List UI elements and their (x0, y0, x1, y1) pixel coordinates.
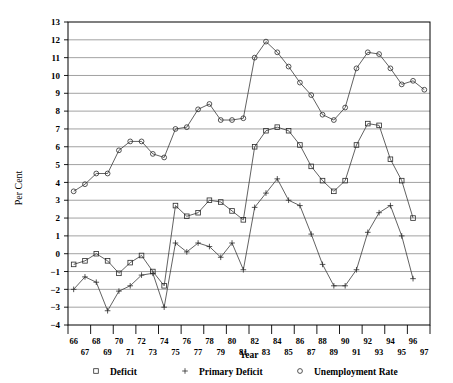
x-tick-label: 71 (126, 347, 135, 357)
x-tick-label: 84 (273, 336, 282, 346)
x-tick-label: 89 (330, 347, 339, 357)
y-tick-label: −1 (50, 267, 60, 277)
data-point-plus (331, 283, 337, 289)
data-series-layer (71, 39, 427, 313)
legend-label: Deficit (110, 367, 138, 377)
x-tick-label: 72 (137, 336, 146, 346)
data-point-plus (376, 210, 382, 216)
data-point-plus (182, 368, 188, 374)
y-tick-label: −2 (50, 285, 60, 295)
x-tick-label: 73 (149, 347, 158, 357)
x-tick-label: 88 (318, 336, 327, 346)
y-axis-title: Per Cent (13, 170, 24, 205)
y-axis-ticks (64, 22, 68, 325)
x-tick-label: 93 (375, 347, 384, 357)
x-tick-label: 69 (103, 347, 112, 357)
y-tick-label: 2 (56, 213, 61, 223)
data-point-circle (71, 189, 76, 194)
x-tick-label: 79 (216, 347, 225, 357)
data-point-plus (320, 262, 326, 268)
y-tick-label: 6 (56, 142, 61, 152)
x-tick-label: 97 (420, 347, 429, 357)
series-primary-deficit (71, 176, 416, 313)
y-tick-label: 1 (56, 231, 61, 241)
x-tick-label: 80 (228, 336, 237, 346)
data-point-plus (105, 308, 111, 314)
series-polyline (74, 42, 425, 192)
plot-frame (68, 22, 430, 325)
chart-container: Per Cent 131211109876543210−1−2−3−4 6667… (0, 0, 453, 383)
x-axis-ticks (68, 325, 430, 334)
x-tick-label: 82 (250, 336, 259, 346)
data-point-plus (93, 279, 99, 285)
x-tick-label: 74 (160, 336, 169, 346)
x-tick-label: 66 (69, 336, 78, 346)
y-tick-label: 0 (56, 249, 61, 259)
x-tick-label: 96 (409, 336, 418, 346)
x-tick-label: 85 (284, 347, 293, 357)
data-point-plus (399, 233, 405, 239)
x-tick-label: 87 (307, 347, 316, 357)
x-tick-label: 86 (296, 336, 305, 346)
x-tick-label: 95 (397, 347, 406, 357)
x-tick-label: 94 (386, 336, 395, 346)
percent-vs-year-line-chart: Per Cent 131211109876543210−1−2−3−4 6667… (0, 0, 453, 383)
y-tick-label: 5 (56, 160, 61, 170)
y-tick-label: 11 (51, 53, 60, 63)
x-tick-label: 77 (194, 347, 203, 357)
y-tick-label: 4 (56, 178, 61, 188)
x-tick-label: 67 (81, 347, 90, 357)
data-point-plus (342, 283, 348, 289)
y-tick-label: −3 (50, 302, 60, 312)
y-tick-label: −4 (50, 320, 60, 330)
x-tick-label: 68 (92, 336, 101, 346)
data-point-square (71, 262, 76, 267)
x-tick-label: 91 (352, 347, 361, 357)
data-point-plus (410, 276, 416, 282)
data-point-square (94, 369, 99, 374)
data-point-plus (297, 203, 303, 209)
y-tick-label: 13 (51, 17, 61, 27)
data-point-plus (388, 203, 394, 209)
x-tick-label: 83 (262, 347, 271, 357)
series-polyline (74, 179, 413, 311)
legend-label: Primary Deficit (199, 367, 263, 377)
legend-label: Unemployment Rate (314, 367, 398, 377)
x-tick-label: 70 (115, 336, 124, 346)
y-tick-label: 7 (56, 124, 61, 134)
y-tick-label: 8 (56, 106, 61, 116)
x-tick-label: 78 (205, 336, 214, 346)
series-unemployment-rate (71, 39, 426, 194)
chart-legend: DeficitPrimary DeficitUnemployment Rate (94, 367, 398, 377)
y-tick-label: 3 (56, 195, 61, 205)
legend-item-unemployment-rate[interactable]: Unemployment Rate (298, 367, 398, 377)
data-point-plus (286, 197, 292, 203)
series-polyline (74, 124, 413, 286)
data-point-plus (365, 230, 371, 236)
legend-item-primary-deficit[interactable]: Primary Deficit (182, 367, 263, 377)
legend-item-deficit[interactable]: Deficit (94, 367, 138, 377)
y-tick-label: 9 (56, 88, 61, 98)
y-tick-label: 10 (51, 71, 61, 81)
x-tick-label: 75 (171, 347, 180, 357)
x-axis-title: Year (240, 350, 260, 360)
x-tick-label: 92 (364, 336, 373, 346)
data-point-circle (298, 369, 303, 374)
data-point-plus (161, 304, 167, 310)
series-deficit (71, 121, 415, 288)
y-axis-tick-labels: 131211109876543210−1−2−3−4 (50, 17, 60, 330)
y-tick-label: 12 (51, 35, 61, 45)
x-tick-label: 76 (183, 336, 192, 346)
x-tick-label: 90 (341, 336, 350, 346)
gridlines (68, 40, 430, 307)
